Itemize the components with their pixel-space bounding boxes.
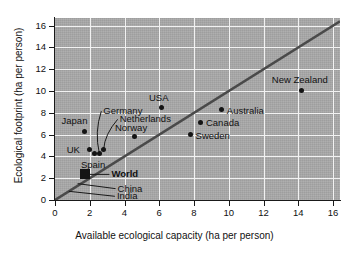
x-tick: [298, 201, 299, 206]
y-tick: [49, 135, 54, 136]
x-tick-label: 16: [323, 208, 343, 218]
data-point-label: Canada: [206, 117, 239, 128]
x-tick-label: 8: [184, 208, 204, 218]
x-tick: [194, 201, 195, 206]
x-tick: [264, 201, 265, 206]
x-tick: [229, 201, 230, 206]
x-tick-label: 10: [219, 208, 239, 218]
data-point-label: Sweden: [196, 130, 230, 141]
x-tick-label: 4: [115, 208, 135, 218]
y-tick: [49, 200, 54, 201]
y-tick-label: 0: [28, 195, 46, 205]
data-point-label: New Zealand: [272, 74, 328, 85]
data-point-marker: [101, 147, 106, 152]
x-tick-label: 0: [45, 208, 65, 218]
y-tick: [49, 156, 54, 157]
y-tick-label: 8: [28, 108, 46, 118]
y-tick-label: 16: [28, 21, 46, 31]
x-tick: [159, 201, 160, 206]
y-tick: [49, 113, 54, 114]
data-point-label: India: [117, 190, 138, 200]
y-tick-label: 10: [28, 86, 46, 96]
x-axis-title: Available ecological capacity (ha per pe…: [0, 230, 349, 241]
x-tick-label: 12: [254, 208, 274, 218]
x-tick-label: 6: [149, 208, 169, 218]
leader-line: [69, 191, 115, 196]
chart-figure: JapanUKSpainGermanyNetherlandsNorwayUSAS…: [0, 0, 349, 267]
y-tick: [49, 47, 54, 48]
y-tick: [49, 91, 54, 92]
y-tick-label: 14: [28, 42, 46, 52]
data-point-label: USA: [149, 92, 169, 103]
data-point-label: World: [111, 168, 138, 179]
data-point-marker: [159, 105, 164, 110]
data-point-label: UK: [67, 144, 80, 155]
y-tick-label: 6: [28, 130, 46, 140]
data-point-label: Japan: [62, 115, 88, 126]
x-tick-label: 14: [288, 208, 308, 218]
plot-area: JapanUKSpainGermanyNetherlandsNorwayUSAS…: [55, 18, 340, 200]
y-tick: [49, 69, 54, 70]
y-tick-label: 2: [28, 173, 46, 183]
leader-lines: [55, 18, 340, 200]
x-tick: [55, 201, 56, 206]
y-tick: [49, 178, 54, 179]
y-tick-label: 4: [28, 151, 46, 161]
y-tick-label: 12: [28, 64, 46, 74]
x-tick: [333, 201, 334, 206]
x-tick: [125, 201, 126, 206]
x-tick: [90, 201, 91, 206]
data-point-marker: [80, 169, 90, 179]
data-point-label: Australia: [227, 105, 264, 116]
x-tick-label: 2: [80, 208, 100, 218]
y-axis-title: Ecological footprint (ha per person): [13, 6, 24, 206]
data-point-marker: [82, 129, 87, 134]
data-point-label: Norway: [115, 122, 147, 133]
y-tick: [49, 26, 54, 27]
leader-line: [78, 184, 116, 189]
y-axis-line: [54, 17, 55, 201]
